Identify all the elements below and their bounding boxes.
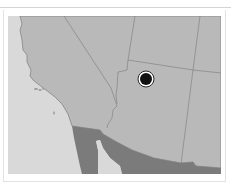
map-view[interactable] xyxy=(8,16,221,174)
location-dot-icon xyxy=(140,73,152,85)
location-marker[interactable] xyxy=(138,71,154,87)
top-divider xyxy=(0,7,231,8)
